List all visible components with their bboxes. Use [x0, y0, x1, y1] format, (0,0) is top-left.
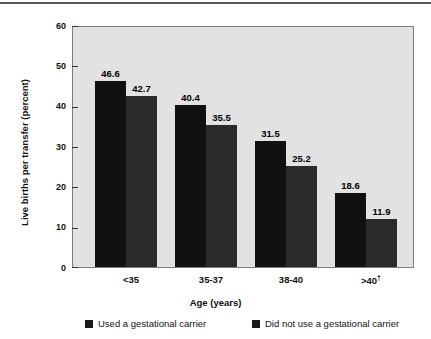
dagger-footnote-marker: † — [377, 274, 381, 281]
bar-used-carrier-35-37 — [175, 105, 206, 267]
y-tick-label-30: 30 — [44, 143, 66, 152]
bar-used-carrier-40 — [335, 193, 366, 267]
x-tick-text-3: >40 — [361, 275, 377, 286]
y-tick-label-40: 40 — [44, 102, 66, 111]
x-tick-text-0: <35 — [123, 274, 139, 285]
y-tick-mark-20 — [72, 187, 78, 188]
chart-figure: Live births per transfer (percent) 60 50… — [0, 0, 431, 339]
x-axis-title: Age (years) — [0, 297, 431, 308]
axes-overlay: Live births per transfer (percent) 60 50… — [0, 0, 431, 339]
x-tick-label-3: >40† — [335, 274, 407, 286]
y-tick-mark-10 — [72, 228, 78, 229]
y-tick-mark-0 — [72, 267, 78, 268]
bar-value-label: 31.5 — [249, 129, 292, 139]
x-tick-text-1: 35-37 — [199, 274, 223, 285]
legend-item-no-carrier: Did not use a gestational carrier — [252, 318, 399, 329]
y-tick-label-20: 20 — [44, 183, 66, 192]
x-tick-label-2: 38-40 — [255, 274, 327, 285]
bar-value-label: 11.9 — [360, 207, 403, 217]
y-axis-title: Live births per transfer (percent) — [19, 33, 30, 273]
bar-no-carrier-40 — [366, 219, 397, 267]
bar-value-label: 35.5 — [200, 113, 243, 123]
bar-value-label: 42.7 — [120, 84, 163, 94]
x-tick-label-0: <35 — [95, 274, 167, 285]
bar-value-label: 46.6 — [89, 69, 132, 79]
y-tick-mark-60 — [72, 26, 78, 27]
bar-no-carrier-35 — [126, 96, 157, 267]
x-tick-text-2: 38-40 — [279, 274, 303, 285]
bar-value-label: 25.2 — [280, 154, 323, 164]
bar-no-carrier-38-40 — [286, 166, 317, 267]
y-tick-label-10: 10 — [44, 223, 66, 232]
bar-value-label: 18.6 — [329, 181, 372, 191]
y-tick-mark-40 — [72, 107, 78, 108]
bar-used-carrier-35 — [95, 81, 126, 267]
x-tick-label-1: 35-37 — [175, 274, 247, 285]
legend-swatch-icon-1 — [252, 320, 260, 328]
y-tick-label-0: 0 — [44, 264, 66, 273]
y-tick-label-50: 50 — [44, 62, 66, 71]
y-tick-mark-30 — [72, 147, 78, 148]
y-tick-mark-50 — [72, 66, 78, 67]
chart-legend: Used a gestational carrier Did not use a… — [0, 318, 431, 334]
legend-item-used-carrier: Used a gestational carrier — [85, 318, 206, 329]
bar-value-label: 40.4 — [169, 93, 212, 103]
y-tick-label-60: 60 — [44, 22, 66, 31]
legend-swatch-icon-0 — [85, 320, 93, 328]
legend-label-0: Used a gestational carrier — [98, 318, 206, 329]
legend-label-1: Did not use a gestational carrier — [265, 318, 399, 329]
bar-no-carrier-35-37 — [206, 125, 237, 267]
